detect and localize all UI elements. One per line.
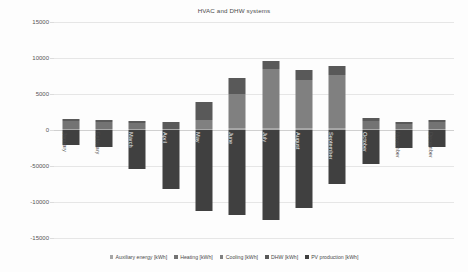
chart-title: HVAC and DHW systems <box>0 7 468 14</box>
bar-group[interactable]: January <box>54 22 87 238</box>
positive-stack[interactable] <box>362 118 379 130</box>
y-axis-label: -10000 <box>30 199 49 205</box>
bar-segment[interactable] <box>295 80 312 128</box>
bar-group[interactable]: August <box>287 22 320 238</box>
bar-group[interactable]: June <box>221 22 254 238</box>
bar-group[interactable]: April <box>154 22 187 238</box>
legend-item[interactable]: PV production [kWh] <box>305 254 358 260</box>
y-axis-label: -50000 <box>30 163 49 169</box>
bar-segment[interactable] <box>362 121 379 129</box>
chart-container: HVAC and DHW systems 150001000050000-500… <box>0 0 468 272</box>
bar-series-layer: JanuaryFebruaryMarchAprilMayJuneJulyAugu… <box>54 22 454 238</box>
y-axis-label: 10000 <box>32 55 49 61</box>
legend-swatch-icon <box>305 255 309 259</box>
y-axis-label: 0 <box>46 127 49 133</box>
bar-segment[interactable] <box>62 121 79 129</box>
positive-stack[interactable] <box>95 120 112 130</box>
positive-stack[interactable] <box>195 102 212 130</box>
positive-stack[interactable] <box>62 119 79 130</box>
legend-item[interactable]: DHW [kWh] <box>265 254 298 260</box>
y-axis-label: -15000 <box>30 235 49 241</box>
legend-label: Auxiliary energy [kWh] <box>116 254 168 260</box>
bar-segment[interactable] <box>162 122 179 129</box>
legend-label: Cooling [kWh] <box>226 254 258 260</box>
x-axis-label: May <box>195 132 201 143</box>
x-axis-label: February <box>95 132 101 154</box>
bar-group[interactable]: July <box>254 22 287 238</box>
x-axis-label: June <box>228 132 234 144</box>
bar-segment[interactable] <box>195 102 212 120</box>
bar-group[interactable]: December <box>421 22 454 238</box>
x-axis-label: October <box>362 132 368 152</box>
bar-group[interactable]: October <box>354 22 387 238</box>
legend-swatch-icon <box>110 255 114 259</box>
gridline <box>54 238 454 239</box>
x-axis-label: September <box>328 132 334 159</box>
bar-segment[interactable] <box>329 66 346 75</box>
x-axis-label: November <box>395 132 401 158</box>
positive-stack[interactable] <box>229 78 246 130</box>
bar-group[interactable]: May <box>187 22 220 238</box>
legend-item[interactable]: Cooling [kWh] <box>220 254 258 260</box>
bar-group[interactable]: November <box>387 22 420 238</box>
bar-group[interactable]: September <box>321 22 354 238</box>
x-axis-label: December <box>428 132 434 158</box>
y-axis-label: 5000 <box>36 91 49 97</box>
bar-segment[interactable] <box>295 70 312 80</box>
bar-segment[interactable] <box>195 120 212 129</box>
legend-label: PV production [kWh] <box>311 254 358 260</box>
bar-segment[interactable] <box>429 122 446 129</box>
chart-legend: Auxiliary energy [kWh]Heating [kWh]Cooli… <box>0 254 468 260</box>
bar-segment-negative[interactable] <box>262 130 279 220</box>
legend-swatch-icon <box>174 255 178 259</box>
positive-stack[interactable] <box>295 70 312 130</box>
legend-item[interactable]: Heating [kWh] <box>174 254 213 260</box>
legend-swatch-icon <box>220 255 224 259</box>
legend-label: Heating [kWh] <box>180 254 213 260</box>
plot-area: 150001000050000-50000-10000-15000 Januar… <box>54 22 454 238</box>
bar-segment[interactable] <box>229 94 246 129</box>
y-axis-tick <box>50 238 54 239</box>
positive-stack[interactable] <box>329 66 346 130</box>
bar-group[interactable]: February <box>87 22 120 238</box>
y-axis-label: 15000 <box>32 19 49 25</box>
positive-stack[interactable] <box>262 61 279 130</box>
x-axis-label: August <box>295 132 301 149</box>
legend-item[interactable]: Auxiliary energy [kWh] <box>110 254 168 260</box>
bar-group[interactable]: March <box>121 22 154 238</box>
legend-label: DHW [kWh] <box>271 254 298 260</box>
x-axis-label: March <box>128 132 134 148</box>
bar-segment[interactable] <box>329 75 346 128</box>
positive-stack[interactable] <box>429 120 446 130</box>
x-axis-label: January <box>62 132 68 152</box>
bar-segment[interactable] <box>262 69 279 128</box>
x-axis-label: July <box>262 132 268 142</box>
legend-swatch-icon <box>265 255 269 259</box>
positive-stack[interactable] <box>162 122 179 130</box>
bar-segment[interactable] <box>229 78 246 93</box>
bar-segment[interactable] <box>95 122 112 129</box>
positive-stack[interactable] <box>129 121 146 130</box>
positive-stack[interactable] <box>395 122 412 130</box>
bar-segment[interactable] <box>262 61 279 69</box>
x-axis-label: April <box>162 132 168 143</box>
